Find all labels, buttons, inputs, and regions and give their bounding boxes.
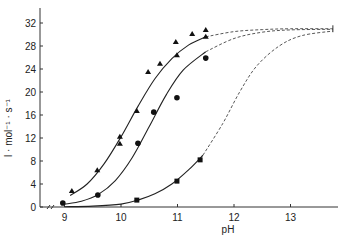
y-tick-label: 24 bbox=[25, 64, 37, 75]
triangle-marker bbox=[174, 52, 180, 57]
square-marker bbox=[134, 198, 139, 203]
triangle-marker bbox=[173, 39, 179, 44]
data-markers bbox=[60, 27, 209, 206]
triangle-marker bbox=[203, 27, 209, 32]
y-tick-label: 8 bbox=[30, 156, 36, 167]
y-tick-label: 20 bbox=[25, 87, 37, 98]
y-tick-label: 12 bbox=[25, 133, 37, 144]
x-tick-label: 12 bbox=[228, 212, 240, 223]
y-tick-label: 32 bbox=[25, 18, 37, 29]
circle-marker bbox=[203, 55, 209, 61]
triangle-marker bbox=[145, 69, 151, 74]
y-tick-label: 0 bbox=[30, 202, 36, 213]
circle-marker bbox=[151, 109, 157, 115]
circles-fit-curve bbox=[65, 52, 206, 204]
squares-fit-curve bbox=[65, 155, 203, 206]
x-tick-label: 10 bbox=[115, 212, 127, 223]
square-marker bbox=[174, 179, 179, 184]
circle-marker bbox=[95, 192, 101, 198]
x-tick-label: 11 bbox=[172, 212, 183, 223]
y-tick-label: 28 bbox=[25, 41, 37, 52]
y-axis-title: l · mol⁻¹ · s⁻¹ bbox=[3, 98, 14, 156]
y-tick-label: 4 bbox=[30, 179, 36, 190]
x-axis-title: pH bbox=[222, 224, 235, 235]
x-tick-label: 13 bbox=[285, 212, 297, 223]
triangle-marker bbox=[157, 61, 163, 66]
triangles-fit-curve bbox=[70, 37, 206, 196]
triangle-marker bbox=[134, 108, 140, 113]
circle-marker bbox=[60, 200, 66, 206]
circle-marker bbox=[135, 140, 141, 146]
circle-marker bbox=[174, 95, 180, 101]
triangle-marker bbox=[189, 31, 195, 36]
square-marker bbox=[198, 157, 203, 162]
triangle-marker bbox=[69, 188, 75, 193]
x-tick-label: 9 bbox=[62, 212, 68, 223]
fit-curves bbox=[65, 25, 333, 206]
squares-extrapolated-curve bbox=[203, 31, 333, 155]
chart: 048121620242832910111213 pH l · mol⁻¹ · … bbox=[0, 0, 352, 236]
y-tick-label: 16 bbox=[25, 110, 37, 121]
circles-extrapolated-curve bbox=[206, 29, 333, 51]
